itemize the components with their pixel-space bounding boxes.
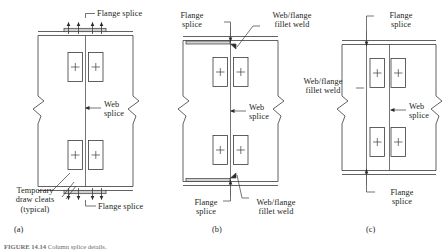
- figure-caption-text: Column splice details.: [48, 243, 107, 250]
- label-flange-splice-top-line1: Flange: [180, 11, 203, 20]
- label-flange-splice-top: Flange splice: [167, 11, 217, 30]
- label-web-flange-fillet-weld: Web/flange fillet weld: [292, 77, 354, 96]
- label-web-splice-line1: Web: [409, 102, 424, 111]
- label-web-splice-line2: splice: [249, 112, 269, 121]
- figure-caption: FIGURE 14.14 Column splice details.: [4, 243, 254, 252]
- label-flange-splice-bottom: Flange splice: [98, 202, 158, 211]
- panel-c: Flange splice Web/flange fillet weld Web…: [296, 0, 442, 252]
- label-fillet-weld-line1: Web/flange: [303, 77, 342, 86]
- panel-a: Flange splice Web splice Temporary draw …: [0, 0, 150, 252]
- label-flange-splice-bottom-line1: Flange: [194, 198, 217, 207]
- label-web-splice-line2: splice: [409, 111, 429, 120]
- column-splice-figure: Flange splice Web splice Temporary draw …: [0, 0, 442, 252]
- label-flange-splice-top-line2: splice: [391, 20, 411, 29]
- label-flange-splice-bottom: Flange splice: [182, 198, 230, 217]
- label-flange-splice-bottom-line2: splice: [392, 197, 412, 206]
- label-temporary-draw-cleats: Temporary draw cleats (typical): [5, 186, 65, 214]
- label-web-splice: Web splice: [104, 100, 144, 119]
- label-draw-cleats-line3: (typical): [20, 205, 49, 214]
- label-fillet-weld-bottom-line2: fillet weld: [259, 207, 294, 216]
- label-web-splice: Web splice: [409, 102, 442, 121]
- label-fillet-weld-line2: fillet weld: [306, 86, 341, 95]
- label-web-splice-line2: splice: [104, 109, 124, 118]
- label-flange-splice-top-line2: splice: [182, 20, 202, 29]
- label-flange-splice-bottom-line1: Flange: [390, 188, 413, 197]
- panel-letter-b: (b): [212, 225, 222, 234]
- label-flange-splice-top: Flange splice: [97, 9, 157, 18]
- label-flange-splice-bottom-line2: splice: [196, 207, 216, 216]
- label-web-splice-line1: Web: [104, 100, 119, 109]
- panel-letter-a: (a): [14, 225, 23, 234]
- figure-caption-label: FIGURE 14.14: [4, 243, 46, 250]
- label-web-splice-line1: Web: [249, 103, 264, 112]
- label-draw-cleats-line2: draw cleats: [16, 195, 55, 204]
- label-web-splice: Web splice: [249, 103, 289, 122]
- panel-c-drawing: [296, 0, 442, 252]
- label-draw-cleats-line1: Temporary: [16, 186, 53, 195]
- label-flange-splice-top-line1: Flange: [389, 11, 412, 20]
- panel-b: Flange splice Web/flange fillet weld Web…: [150, 0, 296, 252]
- label-flange-splice-top: Flange splice: [376, 11, 426, 30]
- label-fillet-weld-bottom-line1: Web/flange: [256, 198, 295, 207]
- label-flange-splice-bottom: Flange splice: [377, 188, 427, 207]
- panel-letter-c: (c): [366, 225, 375, 234]
